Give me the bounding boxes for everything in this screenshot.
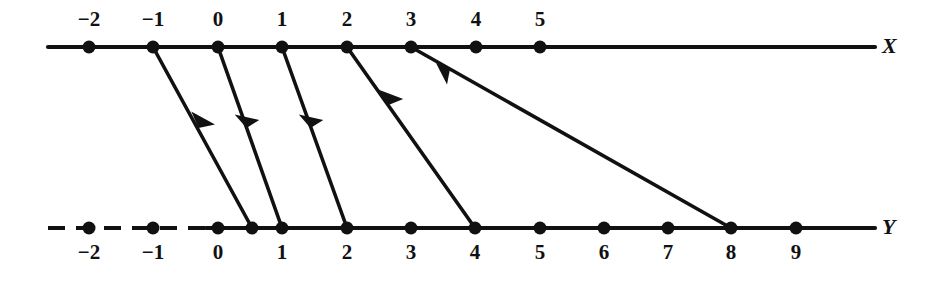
- y-tick-label: 8: [726, 240, 737, 264]
- y-tick-label: 4: [470, 240, 481, 264]
- y-tick-dot: [83, 222, 96, 235]
- x-tick-label: 2: [342, 7, 353, 31]
- y-tick-label: 9: [791, 240, 802, 264]
- y-tick-dot: [662, 222, 675, 235]
- y-tick-label: 5: [535, 240, 546, 264]
- y-tick-label: 0: [213, 240, 224, 264]
- mapping-arrow: [218, 47, 282, 228]
- x-tick-dot: [470, 41, 483, 54]
- figure-root: −2 −1 0 1 2 3 4 5 X: [0, 0, 936, 282]
- x-axis-group: −2 −1 0 1 2 3 4 5 X: [48, 7, 898, 58]
- x-tick-label: −2: [78, 7, 100, 31]
- x-tick-label: 3: [406, 7, 417, 31]
- y-tick-label: 7: [663, 240, 674, 264]
- y-tick-dot: [405, 222, 418, 235]
- x-tick-label: 1: [277, 7, 288, 31]
- y-tick-dot: [147, 222, 160, 235]
- y-tick-dot: [598, 222, 611, 235]
- x-tick-label: 4: [471, 7, 482, 31]
- x-axis-label: X: [881, 33, 898, 58]
- y-tick-label: 1: [277, 240, 288, 264]
- y-tick-label: 6: [599, 240, 610, 264]
- mapping-arrow: [153, 47, 252, 228]
- x-tick-label: 5: [535, 7, 546, 31]
- y-tick-label: 2: [342, 240, 353, 264]
- mapping-diagram-svg: −2 −1 0 1 2 3 4 5 X: [0, 0, 936, 282]
- y-tick-label: 3: [406, 240, 417, 264]
- y-tick-dot: [790, 222, 803, 235]
- arrow-head-icon: [299, 114, 324, 128]
- y-tick-label: −1: [142, 240, 164, 264]
- y-tick-dot: [212, 222, 225, 235]
- x-tick-dot: [534, 41, 547, 54]
- arrow-head-icon: [235, 114, 260, 128]
- mapping-arrow: [411, 47, 731, 228]
- y-axis-group: −2 −1 0 1 2 3 4 5 6 7 8 9 Y: [48, 214, 898, 264]
- mapping-arrow: [282, 47, 347, 228]
- y-tick-label: −2: [78, 240, 100, 264]
- y-axis-label: Y: [882, 214, 898, 239]
- x-tick-label: −1: [142, 7, 164, 31]
- x-tick-dot: [83, 41, 96, 54]
- x-tick-label: 0: [213, 7, 224, 31]
- y-tick-dot: [534, 222, 547, 235]
